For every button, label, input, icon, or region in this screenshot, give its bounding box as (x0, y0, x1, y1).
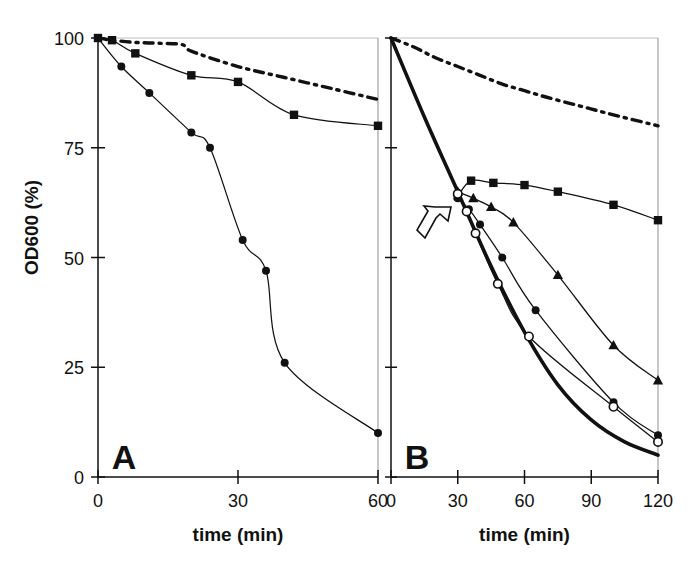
panel-a-ytick-label: 0 (74, 468, 84, 488)
panel-b-series-line (458, 194, 658, 442)
marker-filled-circle (117, 63, 125, 71)
marker-filled-circle (498, 254, 506, 262)
panel-b-series-line (391, 38, 658, 455)
marker-filled-square (520, 181, 528, 189)
marker-filled-circle (262, 267, 270, 275)
marker-filled-square (489, 179, 497, 187)
panel-a-series-line (98, 38, 378, 433)
marker-filled-square (187, 71, 195, 79)
marker-filled-square (467, 176, 475, 184)
marker-open-circle (462, 207, 470, 215)
marker-filled-square (131, 49, 139, 57)
figure-root: 0255075100030600306090120ABtime (min)tim… (0, 0, 693, 581)
panel-a-ytick-label: 100 (54, 29, 84, 49)
panel-b-xaxis-label: time (min) (479, 524, 570, 545)
marker-filled-circle (187, 128, 195, 136)
marker-filled-square (654, 216, 662, 224)
marker-open-circle (494, 280, 502, 288)
panel-b-xtick-label: 0 (386, 491, 396, 511)
marker-filled-circle (206, 144, 214, 152)
panel-a-letter: A (112, 438, 137, 476)
marker-open-circle (471, 229, 479, 237)
panel-a-ytick-label: 50 (64, 249, 84, 269)
marker-filled-circle (145, 89, 153, 97)
marker-filled-square (609, 201, 617, 209)
panel-b-letter: B (405, 438, 430, 476)
panel-b-xtick-label: 30 (448, 491, 468, 511)
panel-a-xaxis-label: time (min) (193, 524, 284, 545)
panel-b-xtick-label: 90 (581, 491, 601, 511)
panel-b-series-line (458, 198, 658, 435)
marker-filled-square (108, 36, 116, 44)
yaxis-label: OD600 (%) (21, 180, 42, 275)
open-arrow-marker (417, 206, 451, 238)
marker-filled-circle (281, 359, 289, 367)
marker-filled-square (290, 111, 298, 119)
panel-a-xtick-label: 30 (228, 491, 248, 511)
marker-open-circle (454, 190, 462, 198)
marker-filled-triangle (468, 193, 478, 202)
marker-filled-square (234, 78, 242, 86)
marker-filled-triangle (653, 375, 663, 384)
panel-b-series-line (391, 38, 658, 126)
marker-filled-circle (476, 221, 484, 229)
panel-b-xtick-label: 60 (514, 491, 534, 511)
panel-b-series-line (458, 180, 658, 220)
marker-filled-square (554, 187, 562, 195)
marker-open-circle (525, 332, 533, 340)
panel-a-ytick-label: 25 (64, 358, 84, 378)
panel-a-series-line (98, 38, 378, 99)
figure-canvas: 0255075100030600306090120ABtime (min)tim… (0, 0, 693, 581)
marker-filled-circle (239, 236, 247, 244)
marker-open-circle (654, 438, 662, 446)
panel-a-axes (98, 38, 378, 477)
marker-filled-triangle (486, 202, 496, 211)
marker-open-circle (609, 403, 617, 411)
panel-a-ytick-label: 75 (64, 139, 84, 159)
marker-filled-square (374, 122, 382, 130)
marker-filled-circle (532, 306, 540, 314)
marker-filled-circle (94, 34, 102, 42)
panel-b-series-line (458, 192, 658, 381)
marker-filled-circle (374, 429, 382, 437)
panel-a-xtick-label: 0 (93, 491, 103, 511)
panel-b-xtick-label: 120 (643, 491, 673, 511)
